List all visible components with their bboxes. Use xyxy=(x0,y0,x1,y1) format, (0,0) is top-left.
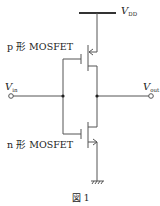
vin-terminal xyxy=(9,94,14,99)
cmos-inverter-circuit xyxy=(0,0,160,206)
input-junction-dot xyxy=(61,94,64,97)
pmos-label: p 形 MOSFET xyxy=(7,42,73,52)
output-junction-dot xyxy=(95,94,98,97)
vdd-label: VDD xyxy=(121,6,137,18)
vin-label: Vin xyxy=(5,82,18,94)
nmos-label: n 形 MOSFET xyxy=(7,140,73,150)
vout-label: Vout xyxy=(143,82,159,94)
vout-terminal xyxy=(149,94,154,99)
figure-caption: 図 1 xyxy=(72,194,90,203)
